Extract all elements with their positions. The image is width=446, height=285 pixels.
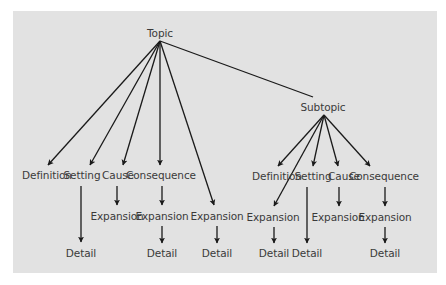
node-subtopic-expansion-detail: Detail xyxy=(259,248,289,259)
node-topic-setting: Setting xyxy=(64,170,101,181)
node-subtopic-consequence-expansion: Expansion xyxy=(358,212,411,223)
edge-subtopic-s_expansion xyxy=(274,115,324,206)
node-topic: Topic xyxy=(147,28,173,39)
node-topic-consequence-detail: Detail xyxy=(147,248,177,259)
edge-layer xyxy=(0,0,446,285)
edge-topic-t_setting xyxy=(90,41,160,165)
edge-topic-t_definition xyxy=(48,41,160,165)
node-subtopic-consequence-detail: Detail xyxy=(370,248,400,259)
node-topic-expansion-detail: Detail xyxy=(202,248,232,259)
edge-topic-subtopic xyxy=(160,41,313,97)
node-topic-expansion: Expansion xyxy=(190,211,243,222)
edge-subtopic-s_definition xyxy=(278,115,324,166)
node-topic-consequence-expansion: Expansion xyxy=(135,211,188,222)
node-subtopic: Subtopic xyxy=(300,102,345,113)
node-topic-setting-detail: Detail xyxy=(66,248,96,259)
node-subtopic-cause-expansion: Expansion xyxy=(311,212,364,223)
node-subtopic-setting-detail: Detail xyxy=(292,248,322,259)
edge-topic-t_cause xyxy=(123,41,160,165)
node-subtopic-setting: Setting xyxy=(295,171,332,182)
node-subtopic-consequence: Consequence xyxy=(349,171,419,182)
node-topic-consequence: Consequence xyxy=(126,170,196,181)
node-subtopic-expansion: Expansion xyxy=(246,212,299,223)
edge-subtopic-s_setting xyxy=(313,115,324,166)
